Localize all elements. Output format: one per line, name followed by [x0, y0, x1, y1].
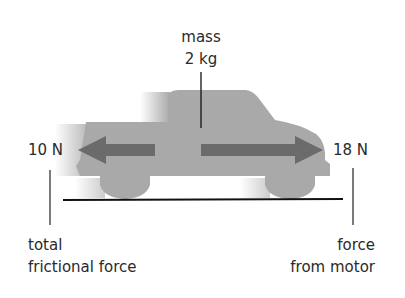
- mass-value: 2 kg: [170, 50, 232, 68]
- friction-label-line2: frictional force: [28, 258, 137, 276]
- friction-force-value: 10 N: [28, 141, 63, 159]
- motor-label-line1: force: [337, 236, 375, 254]
- motor-force-value: 18 N: [333, 141, 368, 159]
- mass-label: mass: [170, 28, 232, 46]
- friction-label-line1: total: [28, 236, 62, 254]
- motor-label-line2: from motor: [290, 258, 375, 276]
- ground-line: [63, 199, 343, 200]
